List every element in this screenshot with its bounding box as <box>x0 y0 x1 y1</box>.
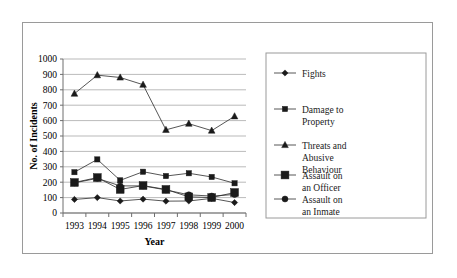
data-point <box>209 174 214 179</box>
x-tick-label: 1998 <box>179 221 198 231</box>
data-point <box>72 170 77 175</box>
y-tick-label: 100 <box>43 193 58 203</box>
data-point <box>117 198 123 204</box>
x-tick-label: 1996 <box>134 221 153 231</box>
data-point <box>186 120 193 126</box>
chart-frame: 0100200300400500600700800900100019931994… <box>22 22 433 254</box>
series-line <box>74 75 234 130</box>
legend-marker <box>281 171 289 179</box>
y-tick-label: 400 <box>43 147 58 157</box>
legend-marker <box>282 196 288 202</box>
data-point <box>186 192 192 198</box>
y-tick-label: 300 <box>43 162 58 172</box>
data-point <box>232 192 238 198</box>
data-point <box>94 195 100 201</box>
legend-box <box>266 53 426 218</box>
data-point <box>71 196 77 202</box>
data-point <box>94 175 100 181</box>
x-tick-label: 1993 <box>65 221 84 231</box>
x-tick-label: 1999 <box>202 221 221 231</box>
y-tick-label: 900 <box>43 70 58 80</box>
series-threats-and-abusive-behaviour <box>71 72 238 134</box>
y-tick-label: 600 <box>43 116 58 126</box>
legend-label: Fights <box>302 69 326 79</box>
legend-label: Assault on <box>302 171 343 181</box>
y-tick-label: 500 <box>43 131 58 141</box>
data-point <box>71 180 77 186</box>
data-point <box>231 199 237 205</box>
data-point <box>140 196 146 202</box>
legend-label: Abusive <box>302 153 334 163</box>
legend-label: Assault on <box>302 195 343 205</box>
data-point <box>163 187 169 193</box>
legend-label: an Inmate <box>302 207 340 217</box>
data-point <box>186 171 191 176</box>
y-tick-label: 1000 <box>38 54 57 64</box>
legend-marker <box>282 106 287 111</box>
y-axis-title: No. of Incidents <box>28 102 39 170</box>
data-point <box>140 183 146 189</box>
data-point <box>95 157 100 162</box>
x-tick-label: 1994 <box>88 221 107 231</box>
y-tick-label: 0 <box>52 208 57 218</box>
data-point <box>163 198 169 204</box>
legend-label: Threats and <box>302 141 347 151</box>
incidents-line-chart: 0100200300400500600700800900100019931994… <box>23 23 432 253</box>
data-point <box>232 181 237 186</box>
x-tick-label: 1997 <box>156 221 175 231</box>
data-point <box>209 193 215 199</box>
legend-label: Property <box>302 117 335 127</box>
data-point <box>163 173 168 178</box>
y-tick-label: 800 <box>43 85 58 95</box>
x-tick-label: 1995 <box>111 221 130 231</box>
chart-legend: FightsDamage toPropertyThreats andAbusiv… <box>266 53 426 218</box>
data-point <box>140 169 145 174</box>
x-axis-title: Year <box>145 236 166 247</box>
legend-label: an Officer <box>302 183 341 193</box>
x-tick-label: 2000 <box>225 221 244 231</box>
y-tick-label: 700 <box>43 101 58 111</box>
legend-label: Damage to <box>302 105 344 115</box>
data-point <box>118 178 123 183</box>
data-point <box>71 90 78 96</box>
data-point <box>231 113 238 119</box>
data-point <box>117 183 123 189</box>
y-tick-label: 200 <box>43 178 58 188</box>
